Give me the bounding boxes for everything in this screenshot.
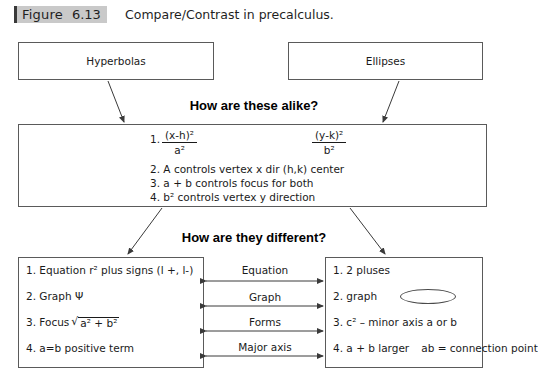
- hyperbolas-box: Hyperbolas: [18, 42, 214, 80]
- ellipses-label: Ellipses: [289, 43, 482, 79]
- fraction-right-denominator: b²: [324, 143, 335, 156]
- fraction-right-numerator: (y-k)²: [312, 129, 346, 143]
- connector-label-equation: Equation: [205, 264, 325, 276]
- hyperbolas-differences-list: 1. Equation r² plus signs (l +, l-) 2. G…: [26, 264, 201, 368]
- list-item: 1. 2 pluses: [333, 264, 483, 290]
- list-item: 4. a=b positive term: [26, 342, 201, 368]
- alike-content: 1. (x-h)² a² (y-k)² b² 2. A controls ver…: [150, 129, 480, 203]
- figure-tag: Figure 6.13: [14, 6, 107, 23]
- ellipses-box: Ellipses: [288, 42, 483, 80]
- figure-label-word: Figure: [22, 7, 63, 22]
- fraction-right: (y-k)² b²: [312, 129, 346, 156]
- fraction-left-denominator: a²: [174, 143, 185, 156]
- list-item-line2: ab = connection point: [421, 342, 538, 354]
- figure-caption: Figure 6.13 Compare/Contrast in precalcu…: [0, 6, 508, 26]
- ellipse-sketch-icon: [400, 289, 456, 304]
- hyperbolas-label: Hyperbolas: [19, 43, 213, 79]
- list-item-line1: 4. a + b larger: [333, 342, 409, 354]
- alike-item: 3. a + b controls focus for both: [150, 177, 480, 189]
- figure-number: 6.13: [72, 7, 101, 22]
- list-item: 3. Focus √ a² + b²: [26, 316, 201, 342]
- figure-caption-text: Compare/Contrast in precalculus.: [125, 7, 334, 22]
- alike-heading: How are these alike?: [0, 98, 508, 113]
- alike-equation-row: 1. (x-h)² a² (y-k)² b²: [150, 129, 480, 161]
- list-item-prefix: 3. Focus: [26, 316, 69, 328]
- square-root-radicand: a² + b²: [78, 317, 119, 330]
- alike-item: 2. A controls vertex x dir (h,k) center: [150, 163, 480, 175]
- list-item: 2. Graph Ψ: [26, 290, 201, 316]
- alike-equation-index: 1.: [150, 133, 160, 145]
- connector-label-forms: Forms: [205, 316, 325, 328]
- fraction-left: (x-h)² a²: [162, 129, 197, 156]
- fraction-left-numerator: (x-h)²: [162, 129, 197, 143]
- list-item: 3. c² – minor axis a or b: [333, 316, 483, 342]
- alike-item: 4. b² controls vertex y direction: [150, 191, 480, 203]
- list-item: 1. Equation r² plus signs (l +, l-): [26, 264, 201, 290]
- ellipses-differences-list: 1. 2 pluses 2. graph 3. c² – minor axis …: [333, 264, 483, 368]
- different-heading: How are they different?: [0, 230, 508, 245]
- connector-label-graph: Graph: [205, 291, 325, 303]
- connector-label-major-axis: Major axis: [205, 341, 325, 353]
- list-item: 4. a + b larger ab = connection point: [333, 342, 483, 368]
- square-root-icon: √ a² + b²: [71, 316, 119, 330]
